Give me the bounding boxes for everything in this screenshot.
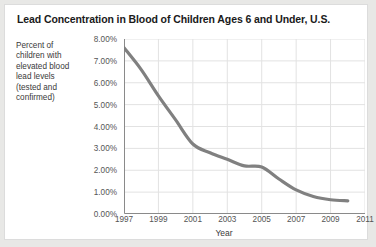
y-axis-label-line: Percent of: [16, 41, 78, 51]
x-axis-tick-label: 2003: [218, 215, 236, 224]
y-axis-label: Percent of children with elevated blood …: [16, 41, 78, 103]
y-axis-label-line: children with: [16, 51, 78, 61]
y-axis-tick-label: 7.00%: [94, 56, 117, 65]
plot-area: 0.00%1.00%2.00%3.00%4.00%5.00%6.00%7.00%…: [83, 39, 365, 214]
x-axis-tick-label: 2007: [287, 215, 305, 224]
chart-card: Lead Concentration in Blood of Children …: [4, 4, 368, 240]
x-axis-tick-label: 2009: [321, 215, 339, 224]
x-axis-tick-label: 1997: [115, 215, 133, 224]
y-axis-tick-label: 6.00%: [94, 78, 117, 87]
x-axis-tick-label: 2005: [253, 215, 271, 224]
y-axis-ticks: 0.00%1.00%2.00%3.00%4.00%5.00%6.00%7.00%…: [83, 39, 120, 214]
x-axis-ticks: 19971999200120032005200720092011: [83, 215, 365, 227]
x-axis-tick-label: 2001: [184, 215, 202, 224]
y-axis-label-line: (tested and: [16, 83, 78, 93]
data-series-line: [124, 48, 348, 201]
y-axis-tick-label: 5.00%: [94, 100, 117, 109]
y-axis-tick-label: 2.00%: [94, 166, 117, 175]
y-axis-label-line: lead levels: [16, 72, 78, 82]
x-axis-title: Year: [83, 228, 365, 238]
y-axis-label-line: elevated blood: [16, 62, 78, 72]
x-axis-tick-label: 2011: [356, 215, 374, 224]
y-axis-tick-label: 1.00%: [94, 188, 117, 197]
y-axis-tick-label: 4.00%: [94, 122, 117, 131]
chart-title: Lead Concentration in Blood of Children …: [17, 13, 330, 25]
plot-canvas: [124, 39, 365, 214]
y-axis-tick-label: 8.00%: [94, 35, 117, 44]
x-axis-tick-label: 1999: [149, 215, 167, 224]
y-axis-tick-label: 3.00%: [94, 144, 117, 153]
y-axis-label-line: confirmed): [16, 93, 78, 103]
